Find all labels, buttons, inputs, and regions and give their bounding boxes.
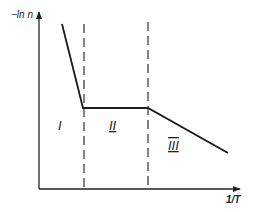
region-label-III: III (168, 138, 179, 153)
region-label-I: I (58, 118, 62, 133)
y-axis-label: −ln n (11, 9, 33, 20)
curve (62, 24, 228, 153)
region-label-II: II (109, 118, 117, 133)
diagram: −ln n 1/T I II III (0, 0, 256, 212)
x-axis-label: 1/T (226, 194, 241, 205)
